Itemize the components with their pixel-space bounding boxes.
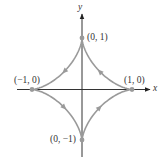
y-axis-label: y [78,3,82,13]
point-label-top: (0, 1) [87,33,108,43]
point-top [80,36,85,41]
point-label-right: (1, 0) [124,76,145,86]
point-bottom [80,138,85,143]
point-left [30,87,35,92]
point-right [130,87,135,92]
point-label-bottom: (0, −1) [50,135,76,145]
x-axis-label: x [153,84,157,94]
point-label-left: (−1, 0) [14,76,40,86]
astroid-diagram: y x (0, 1) (−1, 0) (1, 0) (0, −1) [0,0,165,163]
